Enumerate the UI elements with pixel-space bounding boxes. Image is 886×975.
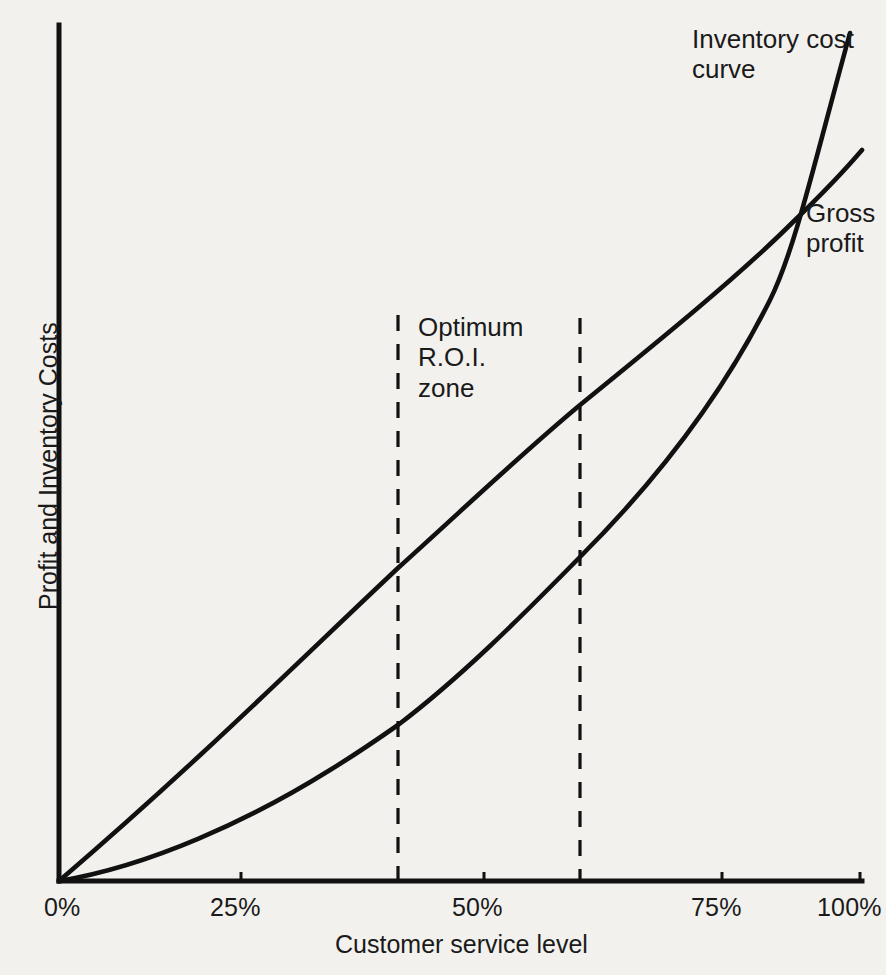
x-tick-label-100: 100% [817,893,882,922]
chart-plot-area [0,0,886,975]
y-axis-title: Profit and Inventory Costs [34,322,63,610]
series-inventory-cost-curve [59,33,850,881]
optimum-roi-zone-label: Optimum R.O.I. zone [418,312,523,403]
chart-container: 0% 25% 50% 75% 100% Customer service lev… [0,0,886,975]
x-axis-title: Customer service level [335,930,588,959]
series-gross-profit-curve [59,150,862,881]
x-tick-label-50: 50% [452,893,503,922]
x-tick-label-0: 0% [44,893,81,922]
gross-profit-label: Gross profit [806,198,875,259]
inventory-cost-curve-label: Inventory cost curve [692,24,854,85]
x-tick-label-25: 25% [210,893,261,922]
x-tick-label-75: 75% [691,893,742,922]
